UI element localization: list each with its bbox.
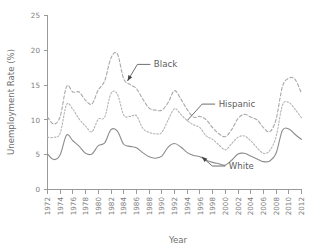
y-axis-title: Unemployment Rate (%) bbox=[6, 49, 16, 155]
series-layer bbox=[48, 52, 302, 165]
x-axis-title: Year bbox=[168, 235, 188, 245]
annotation-arrowhead bbox=[128, 75, 133, 81]
annotation-leader-line bbox=[128, 64, 151, 81]
x-tick-label: 1994 bbox=[183, 197, 192, 216]
y-tick-label: 15 bbox=[31, 81, 40, 90]
y-tick-label: 0 bbox=[35, 185, 40, 194]
x-tick-label: 1988 bbox=[145, 197, 154, 216]
x-tick-label: 1992 bbox=[170, 197, 179, 215]
x-tick-label: 1998 bbox=[208, 197, 217, 216]
y-axis: 0510152025 Unemployment Rate (%) bbox=[6, 11, 48, 194]
y-axis-ticks: 0510152025 bbox=[31, 11, 48, 194]
x-tick-label: 2002 bbox=[234, 197, 243, 215]
series-line-white bbox=[48, 128, 302, 165]
x-tick-label: 2000 bbox=[221, 197, 230, 216]
x-tick-label: 1974 bbox=[56, 197, 65, 216]
x-tick-label: 1980 bbox=[94, 197, 103, 216]
y-tick-label: 10 bbox=[31, 116, 41, 125]
x-tick-label: 2012 bbox=[297, 197, 306, 215]
y-tick-label: 25 bbox=[31, 11, 40, 20]
x-tick-label: 2006 bbox=[259, 197, 268, 216]
y-tick-label: 20 bbox=[31, 46, 41, 55]
x-tick-label: 1984 bbox=[119, 197, 128, 216]
annotation-leader-line bbox=[187, 104, 215, 121]
series-annotation-label: Hispanic bbox=[219, 99, 256, 109]
y-tick-label: 5 bbox=[35, 150, 40, 159]
x-tick-label: 1978 bbox=[81, 197, 90, 216]
chart-figure: 0510152025 Unemployment Rate (%) 1972197… bbox=[0, 0, 322, 251]
x-tick-label: 1976 bbox=[69, 197, 78, 216]
x-tick-label: 2004 bbox=[246, 197, 255, 216]
x-axis: 1972197419761978198019821984198619881990… bbox=[43, 190, 306, 246]
x-tick-label: 1986 bbox=[132, 197, 141, 216]
series-annotation-label: Black bbox=[154, 59, 177, 69]
unemployment-rate-line-chart: 0510152025 Unemployment Rate (%) 1972197… bbox=[0, 0, 322, 251]
x-tick-label: 1982 bbox=[107, 197, 116, 215]
x-tick-label: 2008 bbox=[272, 197, 281, 216]
x-tick-label: 1990 bbox=[157, 197, 166, 216]
x-axis-ticks: 1972197419761978198019821984198619881990… bbox=[43, 190, 306, 216]
x-tick-label: 1972 bbox=[43, 197, 52, 215]
x-tick-label: 2010 bbox=[284, 197, 293, 216]
series-annotation-label: White bbox=[229, 161, 254, 171]
x-tick-label: 1996 bbox=[196, 197, 205, 216]
